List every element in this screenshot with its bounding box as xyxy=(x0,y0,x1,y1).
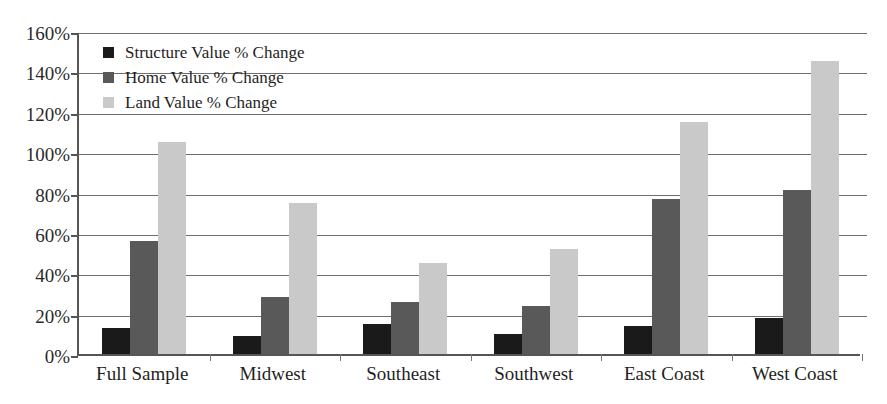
bar xyxy=(130,241,158,354)
y-axis-tick-label: 140% xyxy=(4,64,70,83)
bar xyxy=(550,249,578,354)
bar xyxy=(261,297,289,354)
bar xyxy=(811,61,839,354)
x-axis-category-label: West Coast xyxy=(730,363,861,385)
x-axis-category-label: Midwest xyxy=(208,363,339,385)
x-tick-mark xyxy=(471,354,472,361)
x-axis-category-label: East Coast xyxy=(599,363,730,385)
bar xyxy=(624,326,652,354)
bar-group xyxy=(732,33,863,354)
legend-item-label: Land Value % Change xyxy=(125,94,277,111)
x-axis-labels: Full SampleMidwestSoutheastSouthwestEast… xyxy=(77,363,860,399)
legend-swatch-home xyxy=(103,72,114,83)
bar xyxy=(755,318,783,354)
legend-item: Land Value % Change xyxy=(103,90,343,115)
y-tick-mark xyxy=(71,316,78,318)
y-axis-tick-label: 20% xyxy=(4,306,70,325)
bar xyxy=(391,302,419,354)
y-tick-mark xyxy=(71,33,78,35)
bar xyxy=(158,142,186,354)
legend-item: Structure Value % Change xyxy=(103,40,343,65)
y-axis-tick-label: 40% xyxy=(4,266,70,285)
y-axis-tick-label: 100% xyxy=(4,145,70,164)
y-axis-tick-label: 120% xyxy=(4,104,70,123)
bar xyxy=(522,306,550,354)
x-axis-category-label: Full Sample xyxy=(77,363,208,385)
legend-item-label: Home Value % Change xyxy=(125,69,284,86)
y-tick-mark xyxy=(71,275,78,277)
bar xyxy=(363,324,391,354)
legend-swatch-land xyxy=(103,97,114,108)
legend-item-label: Structure Value % Change xyxy=(125,44,305,61)
y-axis-tick-label: 80% xyxy=(4,185,70,204)
bar-group xyxy=(340,33,471,354)
x-tick-mark xyxy=(732,354,733,361)
y-tick-mark xyxy=(71,356,78,358)
x-tick-mark xyxy=(210,354,211,361)
bar xyxy=(289,203,317,354)
x-tick-mark xyxy=(862,354,863,361)
y-tick-mark xyxy=(71,114,78,116)
bar-group xyxy=(471,33,602,354)
bar xyxy=(652,199,680,354)
y-axis-labels: 160%140%120%100%80%60%40%20%0% xyxy=(0,0,70,404)
y-tick-mark xyxy=(71,73,78,75)
bar xyxy=(680,122,708,354)
bar xyxy=(783,190,811,354)
y-tick-mark xyxy=(71,195,78,197)
y-axis-tick-label: 160% xyxy=(4,24,70,43)
bar xyxy=(102,328,130,354)
x-tick-mark xyxy=(601,354,602,361)
legend-item: Home Value % Change xyxy=(103,65,343,90)
y-axis-tick-label: 0% xyxy=(4,347,70,366)
y-tick-mark xyxy=(71,154,78,156)
legend-swatch-structure xyxy=(103,47,114,58)
bar xyxy=(494,334,522,354)
bar-group xyxy=(601,33,732,354)
chart-legend: Structure Value % ChangeHome Value % Cha… xyxy=(103,40,343,115)
bar-chart: 160%140%120%100%80%60%40%20%0% Full Samp… xyxy=(0,0,887,404)
bar xyxy=(419,263,447,354)
y-axis-tick-label: 60% xyxy=(4,225,70,244)
y-tick-mark xyxy=(71,235,78,237)
bar xyxy=(233,336,261,354)
x-axis-category-label: Southwest xyxy=(469,363,600,385)
x-axis-category-label: Southeast xyxy=(338,363,469,385)
x-tick-mark xyxy=(340,354,341,361)
